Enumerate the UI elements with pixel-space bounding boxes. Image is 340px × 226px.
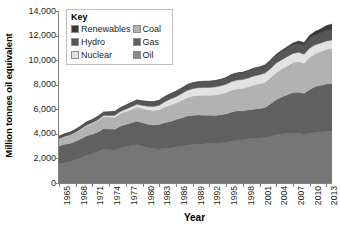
stacked-area-chart: Million tonnes oil equivalent 02,0004,00… [0, 0, 340, 226]
legend-swatch-icon [133, 38, 141, 46]
legend-swatch-icon [71, 25, 79, 33]
legend-swatch-icon [71, 38, 79, 46]
x-axis-tick-label: 1974 [112, 186, 122, 205]
y-axis-tick-mark [55, 85, 59, 86]
legend-item-coal[interactable]: Coal [133, 23, 169, 35]
y-axis-title-text: Million tonnes oil equivalent [3, 33, 14, 157]
legend-item-label: Gas [143, 37, 160, 47]
x-axis-tick-label: 1983 [162, 186, 172, 205]
y-axis-tick-label: 0 [18, 179, 56, 188]
y-axis-tick-label: 8,000 [18, 80, 56, 89]
y-axis-title: Million tonnes oil equivalent [0, 0, 16, 190]
legend-item-label: Nuclear [81, 50, 112, 60]
legend-item-label: Renewables [81, 24, 131, 34]
legend-title: Key [71, 12, 169, 23]
x-axis-tick-label: 1998 [246, 186, 256, 205]
y-axis-tick-label: 2,000 [18, 154, 56, 163]
x-axis-tick-label: 1971 [95, 186, 105, 205]
legend-column: RenewablesHydroNuclear [71, 23, 131, 61]
x-axis-tick-label: 1980 [146, 186, 156, 205]
y-axis-tick-label: 4,000 [18, 129, 56, 138]
y-axis-tick-mark [55, 109, 59, 110]
x-axis-tick-label: 2001 [263, 186, 273, 205]
y-axis-tick-mark [55, 36, 59, 37]
x-axis-tick-label: 1986 [179, 186, 189, 205]
chart-legend: Key RenewablesHydroNuclearCoalGasOil [66, 9, 173, 65]
y-axis-tick-label: 10,000 [18, 56, 56, 65]
y-axis-tick-label: 6,000 [18, 105, 56, 114]
legend-swatch-icon [133, 25, 141, 33]
y-axis-tick-mark [55, 158, 59, 159]
legend-item-label: Oil [143, 50, 154, 60]
y-axis-tick-label: 12,000 [18, 31, 56, 40]
legend-column: CoalGasOil [133, 23, 169, 61]
x-axis-tick-label: 2004 [279, 186, 289, 205]
legend-columns: RenewablesHydroNuclearCoalGasOil [71, 23, 169, 61]
x-axis-tick-label: 1977 [129, 186, 139, 205]
x-axis-title: Year [58, 212, 331, 223]
y-axis-tick-labels: 02,0004,0006,0008,00010,00012,00014,000 [16, 0, 56, 190]
legend-item-label: Hydro [81, 37, 105, 47]
x-axis-tick-label: 1965 [62, 186, 72, 205]
x-axis-tick-label: 2010 [313, 186, 323, 205]
x-axis-tick-label: 1989 [196, 186, 206, 205]
legend-item-renewables[interactable]: Renewables [71, 23, 131, 35]
x-axis-tick-label: 1968 [79, 186, 89, 205]
legend-item-hydro[interactable]: Hydro [71, 36, 131, 48]
y-axis-tick-mark [55, 60, 59, 61]
x-axis-tick-label: 2013 [329, 186, 339, 205]
y-axis-tick-label: 14,000 [18, 7, 56, 16]
legend-item-nuclear[interactable]: Nuclear [71, 49, 131, 61]
legend-item-label: Coal [143, 24, 162, 34]
x-axis-tick-label: 1992 [212, 186, 222, 205]
legend-swatch-icon [133, 51, 141, 59]
legend-swatch-icon [71, 51, 79, 59]
x-axis-tick-label: 2007 [296, 186, 306, 205]
x-axis-tick-label: 1995 [229, 186, 239, 205]
legend-item-gas[interactable]: Gas [133, 36, 169, 48]
legend-item-oil[interactable]: Oil [133, 49, 169, 61]
y-axis-tick-mark [55, 134, 59, 135]
y-axis-tick-mark [55, 11, 59, 12]
